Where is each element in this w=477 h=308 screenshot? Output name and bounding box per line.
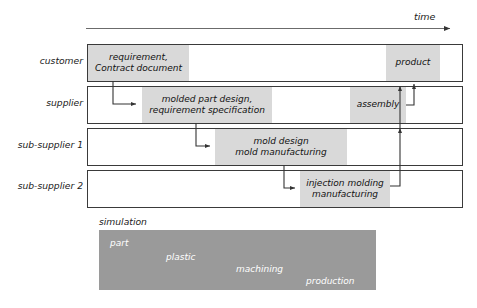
lane-sub-supplier-2 [87,170,463,208]
process-timeline-diagram: time customer supplier sub-supplier 1 su… [0,0,477,308]
activity-block-label: injection molding manufacturing [304,178,386,201]
simulation-word-production: production [306,276,355,286]
lane-label-sub-supplier-2: sub-supplier 2 [0,180,83,191]
activity-block-molded-part-design[interactable]: molded part design, requirement specific… [142,87,272,123]
activity-block-label: assembly [355,99,402,111]
activity-block-assembly[interactable]: assembly [350,87,406,123]
activity-block-label: requirement, Contract document [93,52,184,75]
lane-label-customer: customer [0,55,83,66]
time-axis-label: time [414,11,435,22]
activity-block-injection-molding[interactable]: injection molding manufacturing [300,171,390,207]
activity-block-product[interactable]: product [386,45,440,81]
simulation-word-plastic: plastic [166,252,195,262]
activity-block-label: product [394,57,433,69]
simulation-word-machining: machining [236,264,283,274]
activity-block-label: molded part design, requirement specific… [147,94,267,117]
activity-block-label: mold design mold manufacturing [233,136,329,159]
lane-label-supplier: supplier [0,97,83,108]
lane-label-sub-supplier-1: sub-supplier 1 [0,139,83,150]
simulation-caption: simulation [99,216,147,227]
activity-block-requirement-contract-document[interactable]: requirement, Contract document [88,45,189,81]
activity-block-mold-design[interactable]: mold design mold manufacturing [215,129,347,165]
simulation-word-part: part [110,238,128,248]
